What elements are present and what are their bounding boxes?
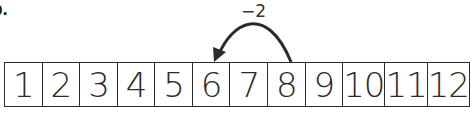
number-cell-6: 6 xyxy=(193,63,231,106)
number-cell-5: 5 xyxy=(155,63,193,106)
number-cell-11: 11 xyxy=(385,63,427,106)
number-cell-10: 10 xyxy=(343,63,385,106)
number-cell-8: 8 xyxy=(268,63,306,106)
number-cell-12: 12 xyxy=(428,63,469,106)
number-cell-2: 2 xyxy=(43,63,81,106)
number-cell-3: 3 xyxy=(80,63,118,106)
number-cell-7: 7 xyxy=(230,63,268,106)
number-cell-9: 9 xyxy=(306,63,344,106)
number-strip: 1 2 3 4 5 6 7 8 9 10 11 12 xyxy=(4,62,470,107)
number-cell-1: 1 xyxy=(5,63,43,106)
number-cell-4: 4 xyxy=(118,63,156,106)
